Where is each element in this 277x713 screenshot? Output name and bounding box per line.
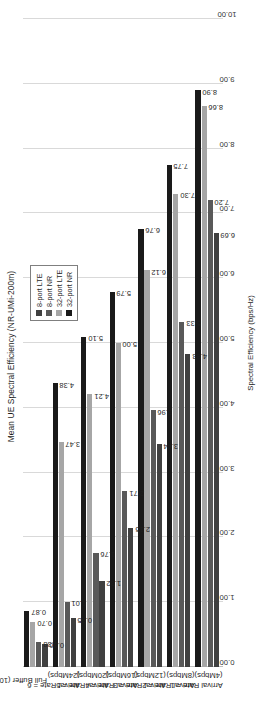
bar[interactable] (122, 491, 127, 667)
bar-value-label: 6.69 (221, 231, 235, 240)
category-label-line2: (4Mbps) (194, 672, 223, 682)
legend-item-label: 8-port NR (45, 276, 54, 307)
bar-value-label: 0.75 (78, 616, 92, 625)
legend-item[interactable]: 32-port LTE (54, 270, 64, 316)
legend-item[interactable]: 32-port NR (64, 270, 74, 316)
plot-area: 0.001.002.003.004.005.006.007.008.009.00… (23, 19, 223, 667)
legend-item-label: 32-port LTE (55, 270, 64, 307)
legend-item[interactable]: 8-port LTE (34, 270, 44, 316)
category-axis-label: Arrival Rate = 4(16Mbps) (109, 672, 138, 691)
bar[interactable] (24, 611, 29, 667)
bar-value-label: 7.75 (174, 162, 188, 171)
legend-swatch-icon (56, 310, 62, 316)
bar-value-label: 4.83 (192, 352, 206, 361)
figure: Mean UE Spectral Efficiency (NR-UMi-200m… (0, 0, 277, 713)
bar-value-label: 6.12 (152, 268, 166, 277)
bar-value-label: 8.66 (209, 103, 223, 112)
bar[interactable] (202, 106, 207, 667)
bar-value-label: 8.90 (203, 88, 217, 97)
bar[interactable] (179, 322, 184, 667)
bar-value-label: 5.33 (186, 319, 200, 328)
bar-value-label: 2.15 (135, 525, 149, 534)
bar-value-label: 0.87 (31, 608, 45, 617)
bar-value-label: 6.76 (145, 226, 159, 235)
bar-value-label: 3.96 (158, 408, 172, 417)
category-label-line1: Arrival Rate = 6 (52, 681, 81, 691)
category-label-line2: (20Mbps) (80, 672, 109, 682)
category-label-line1: Arrival Rate = 1 (194, 681, 223, 691)
bar-value-label: 1.76 (100, 550, 114, 559)
page-title: Mean UE Spectral Efficiency (NR-UMi-200m… (6, 0, 16, 713)
category-label-line1: Full Buffer (10 UEs/cell) (18, 676, 47, 686)
bar[interactable] (157, 444, 162, 667)
bar[interactable] (128, 528, 133, 667)
category-group: 0.751.013.474.38 (52, 19, 81, 667)
bar[interactable] (173, 194, 178, 667)
bar[interactable] (93, 553, 98, 667)
bar-value-label: 1.32 (107, 579, 121, 588)
category-group: 0.360.380.700.87 (23, 19, 52, 667)
category-label-line1: Arrival Rate = 5 (80, 681, 109, 691)
bar-value-label: 5.10 (88, 334, 102, 343)
category-label-line2: (8Mbps) (166, 672, 195, 682)
category-axis-label: Arrival Rate = 2(8Mbps) (166, 672, 195, 691)
category-label-line1: Arrival Rate = 3 (137, 681, 166, 691)
legend-swatch-icon (66, 310, 72, 316)
bar-value-label: 0.38 (43, 640, 57, 649)
category-label-line2: (12Mbps) (137, 672, 166, 682)
bar[interactable] (195, 90, 200, 667)
category-axis-label: Arrival Rate = 3(12Mbps) (137, 672, 166, 691)
bar[interactable] (151, 410, 156, 667)
category-label-line2: (24Mbps) (52, 672, 81, 682)
bar[interactable] (208, 200, 213, 667)
legend-item-label: 8-port LTE (35, 274, 44, 307)
category-group: 3.443.966.126.76 (137, 19, 166, 667)
legend-swatch-icon (46, 310, 52, 316)
category-axis-label: Arrival Rate = 1(4Mbps) (194, 672, 223, 691)
bar[interactable] (185, 354, 190, 667)
bar-value-label: 1.01 (72, 599, 86, 608)
bar[interactable] (65, 602, 70, 667)
bar[interactable] (36, 642, 41, 667)
bar[interactable] (71, 618, 76, 667)
category-axis-label: Arrival Rate = 5(20Mbps) (80, 672, 109, 691)
bar[interactable] (59, 442, 64, 667)
chart-canvas: Mean UE Spectral Efficiency (NR-UMi-200m… (0, 0, 277, 713)
category-group: 1.321.764.215.10 (80, 19, 109, 667)
category-label-line1: Arrival Rate = 2 (166, 681, 195, 691)
legend: 8-port LTE8-port NR32-port LTE32-port NR (30, 265, 78, 321)
category-label-line1: Arrival Rate = 4 (109, 681, 138, 691)
axis-tick-label: 10.00 (217, 10, 236, 19)
category-axis-label: Full Buffer (10 UEs/cell) (18, 676, 47, 686)
value-axis-title: Spectral Efficiency (bps/Hz) (246, 19, 255, 667)
bar[interactable] (53, 383, 58, 667)
bar-value-label: 5.00 (123, 341, 137, 350)
bar[interactable] (30, 622, 35, 667)
legend-item-label: 32-port NR (65, 272, 74, 307)
bar[interactable] (110, 292, 115, 667)
bar-value-label: 2.71 (129, 489, 143, 498)
bar[interactable] (138, 229, 143, 667)
category-group: 2.152.715.005.79 (109, 19, 138, 667)
category-label-line2: (16Mbps) (109, 672, 138, 682)
bar-value-label: 5.79 (117, 289, 131, 298)
category-axis-label: Arrival Rate = 6(24Mbps) (52, 672, 81, 691)
legend-item[interactable]: 8-port NR (44, 270, 54, 316)
bar-value-label: 3.47 (66, 440, 80, 449)
bar[interactable] (87, 394, 92, 667)
bar-value-label: 4.21 (94, 392, 108, 401)
category-group: 4.835.337.307.75 (166, 19, 195, 667)
bar[interactable] (116, 343, 121, 667)
bar-value-label: 0.70 (37, 619, 51, 628)
bar[interactable] (99, 581, 104, 667)
bar-value-label: 7.30 (180, 191, 194, 200)
legend-swatch-icon (36, 310, 42, 316)
bar-value-label: 4.38 (60, 381, 74, 390)
bar-value-label: 7.20 (215, 198, 229, 207)
bar[interactable] (144, 270, 149, 667)
bar[interactable] (214, 234, 219, 668)
bar-value-label: 3.44 (164, 442, 178, 451)
category-group: 6.697.208.668.90 (194, 19, 223, 667)
